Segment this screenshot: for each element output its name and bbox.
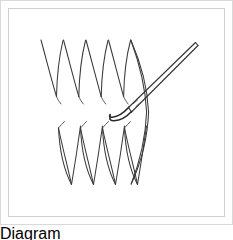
needle-holder-shaft — [129, 43, 199, 113]
lower-suture-row — [59, 122, 147, 185]
upper-stitch-2 — [64, 40, 86, 104]
upper-suture-row — [41, 40, 131, 104]
figure-root: Continuous suture with curved needle Lin… — [0, 0, 233, 225]
lower-stitch-4 — [125, 122, 147, 185]
lower-stitch-1 — [59, 122, 81, 185]
upper-stitch-3 — [86, 40, 108, 104]
suture-drawing — [0, 0, 233, 225]
lower-stitch-2 — [81, 122, 103, 185]
lower-stitch-3 — [103, 122, 125, 185]
wound-edge-lens — [131, 40, 149, 184]
upper-stitch-1 — [41, 40, 63, 104]
curved-needle-tip — [110, 107, 132, 121]
upper-stitch-4 — [109, 40, 131, 104]
